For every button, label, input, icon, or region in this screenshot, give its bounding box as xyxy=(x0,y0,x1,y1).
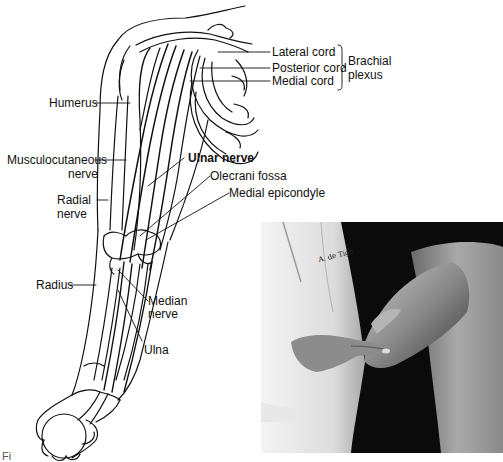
label-olecrani-fossa: Olecrani fossa xyxy=(210,169,287,183)
label-radial-1: Radial xyxy=(57,193,91,207)
label-medial-epicondyle: Medial epicondyle xyxy=(229,186,325,200)
label-medial-cord: Medial cord xyxy=(272,74,334,88)
clinical-photo: A. de Tigo xyxy=(261,222,503,453)
label-median-1: Median xyxy=(148,294,187,308)
label-median-2: nerve xyxy=(148,307,178,321)
label-humerus: Humerus xyxy=(49,96,98,110)
figure-caption-fragment: Fi xyxy=(2,450,11,462)
label-radius: Radius xyxy=(36,278,73,292)
label-radial-2: nerve xyxy=(57,207,87,221)
label-brachial-plexus-2: plexus xyxy=(348,68,383,82)
label-brachial-plexus-1: Brachial xyxy=(348,54,391,68)
label-lateral-cord: Lateral cord xyxy=(272,45,335,59)
label-musculocutaneous-1: Musculocutaneous xyxy=(7,153,107,167)
label-ulnar-nerve: Ulnar nerve xyxy=(188,151,254,165)
label-musculocutaneous-2: nerve xyxy=(68,167,98,181)
label-posterior-cord: Posterior cord xyxy=(272,61,347,75)
label-ulna: Ulna xyxy=(144,343,169,357)
clinical-photo-image: A. de Tigo xyxy=(261,222,503,453)
